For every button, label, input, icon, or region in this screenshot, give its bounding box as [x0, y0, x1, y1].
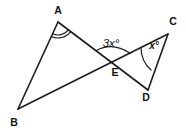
point-label-c: C: [166, 16, 180, 27]
angle-label-x-at-C: x°: [144, 40, 164, 52]
point-label-e: E: [108, 67, 122, 78]
angle-label-3x-at-E: 3x°: [98, 37, 124, 50]
point-label-b: B: [7, 117, 21, 128]
angle-arc-A-inner: [53, 30, 69, 35]
point-label-d: D: [139, 92, 153, 103]
geometry-figure: A B C D E 3x° x°: [0, 0, 186, 139]
segment-AD: [58, 22, 148, 90]
segment-AB: [18, 22, 58, 109]
point-label-a: A: [51, 5, 65, 16]
figure-drawing: [0, 0, 186, 139]
